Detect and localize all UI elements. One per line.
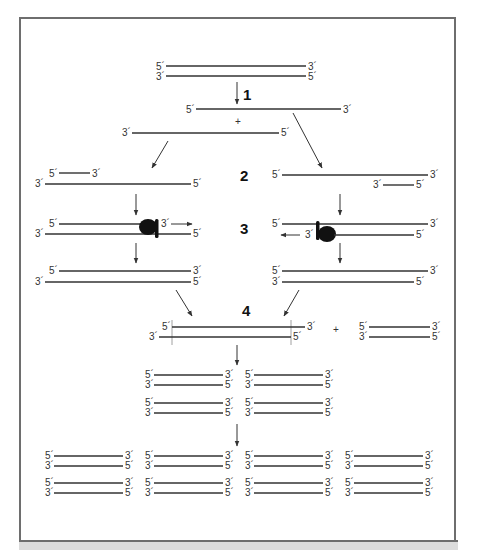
svg-text:5´: 5´ <box>49 218 58 229</box>
svg-text:3´: 3´ <box>92 168 101 179</box>
svg-text:3´: 3´ <box>45 487 54 498</box>
step-4-label: 4 <box>242 302 251 319</box>
svg-text:3´: 3´ <box>430 265 439 276</box>
svg-text:3´: 3´ <box>359 331 368 342</box>
svg-text:5´: 5´ <box>325 460 334 471</box>
pcr-diagram: 5´ 3´ 3´ 5´ 1 5´ 3´ + 3´ 5´ 2 5´ 3´ 3´ 5… <box>0 0 478 550</box>
svg-text:5´: 5´ <box>325 379 334 390</box>
extension-left: 5´ 3´ 5´ 3´ <box>35 218 202 239</box>
step-2-label: 2 <box>240 167 248 184</box>
svg-text:5´: 5´ <box>325 487 334 498</box>
arrow-right-step-2 <box>293 113 322 168</box>
svg-text:5´: 5´ <box>49 168 58 179</box>
polymerase-icon <box>139 219 157 235</box>
svg-text:5´: 5´ <box>432 331 441 342</box>
svg-text:5´: 5´ <box>225 407 234 418</box>
svg-text:5´: 5´ <box>272 169 281 180</box>
svg-text:5´: 5´ <box>125 487 134 498</box>
annealing-left: 5´ 3´ 3´ 5´ <box>35 168 202 189</box>
svg-text:3´: 3´ <box>245 407 254 418</box>
cycle-product: 5´ 3´ 3´ 5´ + 5´ 3´ 3´ 5´ <box>149 320 441 345</box>
svg-text:3´: 3´ <box>305 229 314 240</box>
svg-text:3´: 3´ <box>430 218 439 229</box>
svg-text:3´: 3´ <box>145 379 154 390</box>
svg-text:5´: 5´ <box>193 276 202 287</box>
svg-text:5´: 5´ <box>186 104 195 115</box>
svg-text:5´: 5´ <box>193 178 202 189</box>
svg-text:5´: 5´ <box>308 71 317 82</box>
svg-text:5´: 5´ <box>162 321 171 332</box>
svg-text:3´: 3´ <box>149 331 158 342</box>
arrow-left-step-4 <box>176 290 192 316</box>
svg-text:5´: 5´ <box>281 127 290 138</box>
svg-text:3´: 3´ <box>345 487 354 498</box>
svg-text:5´: 5´ <box>49 265 58 276</box>
svg-text:3´: 3´ <box>45 460 54 471</box>
svg-text:3´: 3´ <box>373 179 382 190</box>
svg-text:5´: 5´ <box>293 331 302 342</box>
svg-text:5´: 5´ <box>425 460 434 471</box>
svg-text:3´: 3´ <box>161 218 170 229</box>
arrow-left-step-2 <box>152 141 168 168</box>
svg-text:5´: 5´ <box>193 228 202 239</box>
svg-text:3´: 3´ <box>156 71 165 82</box>
svg-text:3´: 3´ <box>193 265 202 276</box>
svg-text:3´: 3´ <box>35 178 44 189</box>
svg-text:3´: 3´ <box>35 228 44 239</box>
step-3-label: 3 <box>240 220 248 237</box>
svg-text:5´: 5´ <box>416 229 425 240</box>
svg-text:3´: 3´ <box>430 169 439 180</box>
svg-text:5´: 5´ <box>416 276 425 287</box>
svg-text:3´: 3´ <box>345 460 354 471</box>
annealing-right: 5´ 3´ 3´ 5´ <box>272 169 439 190</box>
duplex-left: 5´ 3´ 3´ 5´ <box>35 265 202 287</box>
denatured-strands: 5´ 3´ + 3´ 5´ <box>122 104 352 138</box>
svg-text:3´: 3´ <box>307 321 316 332</box>
svg-text:5´: 5´ <box>225 460 234 471</box>
arrow-right-step-4 <box>284 290 299 316</box>
svg-text:+: + <box>333 324 339 335</box>
svg-text:+: + <box>235 116 241 127</box>
svg-text:3´: 3´ <box>145 487 154 498</box>
polymerase-icon <box>318 226 336 242</box>
svg-text:3´: 3´ <box>122 127 131 138</box>
svg-text:5´: 5´ <box>225 487 234 498</box>
svg-text:5´: 5´ <box>272 265 281 276</box>
copies-4: 5´3´ 3´5´ 5´3´ 3´5´ 5´3´ 3´5´ 5´3´ 3´5´ <box>145 369 334 418</box>
svg-text:3´: 3´ <box>272 276 281 287</box>
template-dna: 5´ 3´ 3´ 5´ <box>156 61 317 82</box>
svg-text:5´: 5´ <box>425 487 434 498</box>
svg-text:5´: 5´ <box>125 460 134 471</box>
extension-right: 5´ 3´ 3´ 5´ <box>272 218 439 242</box>
svg-text:3´: 3´ <box>245 460 254 471</box>
svg-text:5´: 5´ <box>225 379 234 390</box>
svg-text:3´: 3´ <box>343 104 352 115</box>
svg-text:3´: 3´ <box>145 460 154 471</box>
duplex-right: 5´ 3´ 3´ 5´ <box>272 265 439 287</box>
svg-text:3´: 3´ <box>35 276 44 287</box>
svg-text:3´: 3´ <box>245 487 254 498</box>
svg-text:3´: 3´ <box>145 407 154 418</box>
svg-text:5´: 5´ <box>325 407 334 418</box>
svg-text:5´: 5´ <box>272 218 281 229</box>
copies-8: 5´3´ 3´5´ 5´3´ 3´5´ 5´3´ 3´5´ 5´3´ 3´5´ … <box>45 450 434 498</box>
svg-text:3´: 3´ <box>245 379 254 390</box>
svg-text:5´: 5´ <box>416 179 425 190</box>
step-1-label: 1 <box>243 86 251 103</box>
